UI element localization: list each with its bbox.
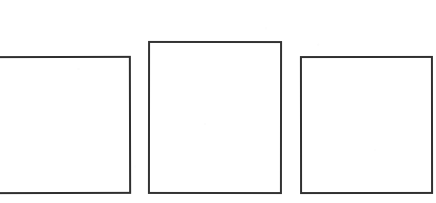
rectangle-center[interactable] xyxy=(148,41,282,194)
rectangle-left[interactable] xyxy=(0,56,131,194)
rectangle-right[interactable] xyxy=(300,56,433,194)
drawing-canvas xyxy=(0,0,436,203)
